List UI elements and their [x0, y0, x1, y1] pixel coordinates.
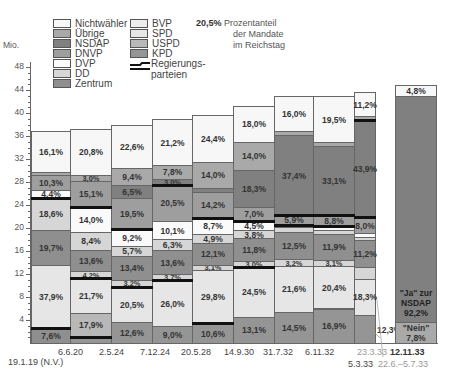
- leader-lines: [0, 0, 450, 377]
